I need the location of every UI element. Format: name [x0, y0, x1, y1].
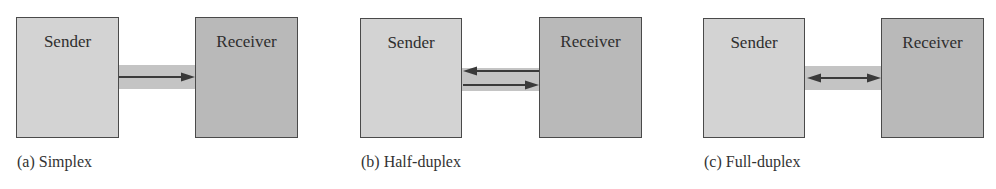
sender-label: Sender — [704, 33, 804, 53]
receiver-label: Receiver — [882, 33, 983, 53]
panel-simplex: Sender Receiver (a) Simplex — [0, 0, 330, 189]
arrow-right-icon — [462, 79, 540, 91]
arrow-bidirectional-icon — [806, 72, 882, 84]
receiver-box: Receiver — [539, 17, 642, 138]
receiver-box: Receiver — [195, 17, 298, 138]
panel-full-duplex: Sender Receiver (c) Full-duplex — [680, 0, 996, 189]
receiver-box: Receiver — [881, 18, 984, 138]
panel-half-duplex: Sender Receiver (b) Half-duplex — [340, 0, 670, 189]
sender-box: Sender — [360, 18, 462, 138]
arrow-left-icon — [462, 65, 540, 77]
receiver-label: Receiver — [196, 32, 297, 52]
receiver-label: Receiver — [540, 32, 641, 52]
sender-box: Sender — [16, 17, 119, 138]
sender-box: Sender — [703, 18, 805, 138]
sender-label: Sender — [17, 32, 118, 52]
caption-full-duplex: (c) Full-duplex — [704, 153, 800, 171]
caption-simplex: (a) Simplex — [17, 153, 92, 171]
caption-half-duplex: (b) Half-duplex — [361, 153, 461, 171]
sender-label: Sender — [361, 33, 461, 53]
arrow-right-icon — [118, 70, 196, 82]
